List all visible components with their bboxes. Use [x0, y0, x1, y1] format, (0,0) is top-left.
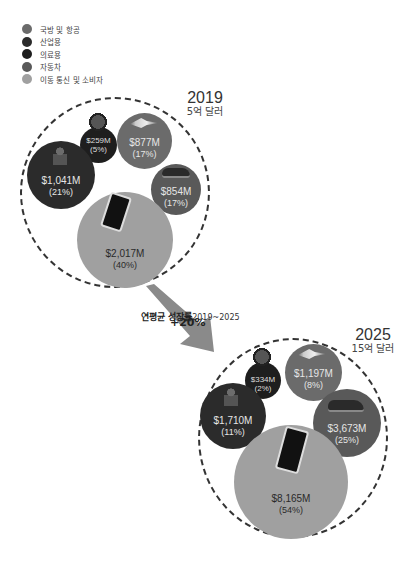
legend-dot-icon	[22, 62, 32, 72]
total-label: 15억 달러	[337, 343, 407, 355]
bubble-share: (5%)	[90, 145, 107, 154]
legend-dot-icon	[22, 49, 32, 59]
bubble-value: $1,041M	[42, 175, 81, 187]
bubble-share: (11%)	[221, 427, 244, 438]
bubble-value: $8,165M	[272, 493, 311, 505]
legend-dot-icon	[22, 24, 32, 34]
legend-item-mobile: 이동 통신 및 소비자	[22, 73, 103, 85]
bubble-share: (40%)	[113, 260, 137, 271]
medical-device-icon	[87, 112, 109, 132]
bubble-share: (8%)	[304, 380, 323, 391]
bubble-value: $2,017M	[106, 248, 145, 260]
total-label: 5억 달러	[165, 106, 245, 118]
group-2019-header: 2019 5억 달러	[165, 90, 245, 118]
bubble-share: (17%)	[132, 149, 156, 160]
bubble-value: $1,710M	[214, 415, 253, 427]
car-icon	[162, 168, 190, 178]
legend-label: 국방 및 항공	[40, 24, 80, 35]
legend-label: 산업용	[40, 36, 61, 47]
legend-dot-icon	[22, 37, 32, 47]
car-icon	[328, 400, 364, 412]
robot-arm-icon	[53, 147, 67, 169]
year-label: 2019	[165, 90, 245, 106]
legend-dot-icon	[22, 74, 32, 84]
group-2025-header: 2025 15억 달러	[337, 327, 407, 355]
legend-item-defense: 국방 및 항공	[22, 23, 103, 35]
legend-item-industrial: 산업용	[22, 36, 103, 48]
bubble-value: $259M	[86, 136, 110, 145]
legend-label: 의료용	[40, 49, 61, 60]
robot-arm-icon	[224, 388, 238, 410]
cagr-value: +20%	[170, 316, 206, 329]
year-label: 2025	[337, 327, 407, 343]
bubble-value: $1,197M	[294, 368, 333, 380]
bubble-value: $854M	[161, 186, 192, 198]
bubble-share: (17%)	[164, 198, 188, 209]
medical-device-icon	[251, 347, 273, 367]
bubble-share: (25%)	[335, 435, 359, 446]
bubble-value: $3,673M	[328, 423, 367, 435]
bubble-value: $334M	[251, 375, 275, 384]
legend-item-automotive: 자동차	[22, 61, 103, 73]
legend-label: 이동 통신 및 소비자	[40, 74, 103, 85]
legend: 국방 및 항공 산업용 의료용 자동차 이동 통신 및 소비자	[22, 23, 103, 86]
bubble-value: $877M	[129, 137, 160, 149]
bubble-share: (2%)	[255, 384, 272, 393]
bubble-share: (21%)	[49, 187, 73, 198]
legend-label: 자동차	[40, 61, 61, 72]
legend-item-medical: 의료용	[22, 48, 103, 60]
bubble-share: (54%)	[279, 505, 303, 516]
